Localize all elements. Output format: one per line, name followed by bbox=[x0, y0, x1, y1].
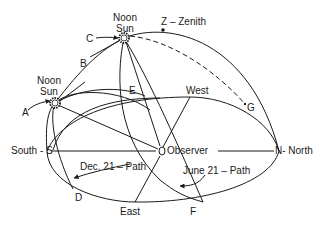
arrow-a bbox=[28, 101, 50, 110]
noon-sun-upper-icon bbox=[119, 33, 129, 43]
observer-label: Observer bbox=[167, 145, 208, 156]
noon-text: Noon bbox=[110, 12, 140, 23]
point-f-label: F bbox=[190, 206, 196, 217]
point-a-label: A bbox=[22, 107, 29, 118]
june21-sun-path bbox=[124, 38, 203, 202]
point-e-label: E bbox=[129, 85, 136, 96]
noon-text: Noon bbox=[34, 75, 64, 86]
west-label: West bbox=[186, 85, 209, 96]
noon-sun-lower-label: Noon Sun bbox=[34, 75, 64, 97]
point-d-label: D bbox=[75, 192, 82, 203]
point-c-label: C bbox=[86, 33, 93, 44]
line-b-to-upper bbox=[90, 41, 119, 57]
observer-to-lower-sun bbox=[58, 105, 158, 149]
south-label: South - S bbox=[11, 145, 53, 156]
observer-icon bbox=[159, 147, 165, 155]
zenith-point bbox=[161, 28, 165, 32]
arrow-june21 bbox=[180, 175, 205, 186]
horizon-back-arc bbox=[47, 97, 279, 151]
east-label: East bbox=[120, 206, 140, 217]
noon-sun-lower-icon bbox=[50, 98, 60, 108]
noon-sun-upper-label: Noon Sun bbox=[110, 12, 140, 34]
north-label: N- North bbox=[275, 145, 313, 156]
dec21-sun-path bbox=[53, 93, 150, 189]
point-b-label: B bbox=[80, 58, 87, 69]
dec21-path-label: Dec. 21 – Path bbox=[80, 161, 146, 172]
sun-path-diagram bbox=[0, 0, 323, 225]
meridian-arc bbox=[46, 32, 279, 151]
sun-text: Sun bbox=[34, 86, 64, 97]
june21-path-label: June 21 – Path bbox=[183, 165, 250, 176]
point-g-label: G bbox=[247, 102, 255, 113]
sun-text: Sun bbox=[110, 23, 140, 34]
zenith-label: Z – Zenith bbox=[161, 16, 206, 27]
arrow-c bbox=[96, 37, 118, 38]
g-point bbox=[244, 103, 246, 105]
